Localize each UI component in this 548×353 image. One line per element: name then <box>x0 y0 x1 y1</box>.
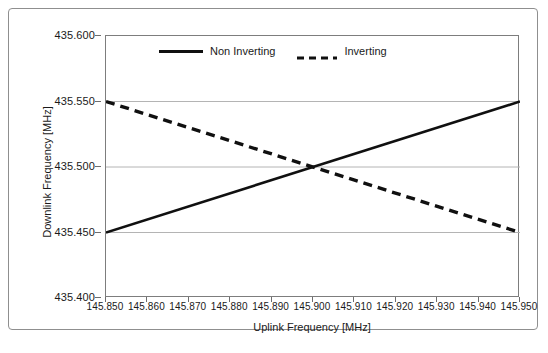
x-tick-label: 145.870 <box>169 301 206 312</box>
y-tick-mark <box>95 35 101 36</box>
y-tick-label: 435.600 <box>55 29 95 41</box>
legend-solid-line-icon <box>159 50 203 53</box>
chart-legend: Non Inverting Inverting <box>159 45 387 57</box>
figure-root: 435.400435.450435.500435.550435.600 Down… <box>0 0 548 353</box>
chart-frame: 435.400435.450435.500435.550435.600 Down… <box>8 8 538 330</box>
y-tick-mark <box>95 166 101 167</box>
x-axis-tick-labels: 145.850145.860145.870145.880145.890145.9… <box>105 301 519 317</box>
y-axis-tick-labels: 435.400435.450435.500435.550435.600 <box>9 35 101 297</box>
y-tick-label: 435.450 <box>55 226 95 238</box>
x-tick-label: 145.940 <box>459 301 496 312</box>
x-tick-label: 145.920 <box>376 301 413 312</box>
x-tick-label: 145.930 <box>418 301 455 312</box>
plot-area <box>105 35 519 297</box>
y-tick-label: 435.550 <box>55 95 95 107</box>
x-tick-label: 145.910 <box>335 301 372 312</box>
y-tick-mark <box>95 232 101 233</box>
y-tick-mark <box>95 297 101 298</box>
legend-item-non-inverting: Non Inverting <box>159 45 275 57</box>
plot-svg <box>106 36 520 298</box>
legend-label-non-inverting: Non Inverting <box>210 45 275 57</box>
x-tick-label: 145.890 <box>252 301 289 312</box>
y-tick-mark <box>95 101 101 102</box>
x-tick-label: 145.900 <box>294 301 331 312</box>
legend-dashed-line-icon <box>297 50 337 53</box>
y-tick-label: 435.500 <box>55 160 95 172</box>
x-tick-label: 145.850 <box>87 301 124 312</box>
x-tick-label: 145.950 <box>501 301 538 312</box>
y-axis-title: Downlink Frequency [MHz] <box>41 72 53 272</box>
legend-item-inverting: Inverting <box>297 45 386 57</box>
x-tick-label: 145.880 <box>211 301 248 312</box>
x-axis-title: Uplink Frequency [MHz] <box>105 321 519 333</box>
x-tick-label: 145.860 <box>128 301 165 312</box>
legend-label-inverting: Inverting <box>344 45 386 57</box>
